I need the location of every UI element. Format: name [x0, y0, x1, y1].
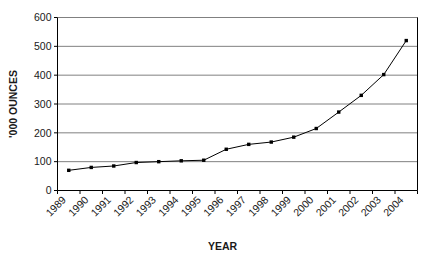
data-point — [360, 94, 363, 97]
line-chart: 0100200300400500600 19891990199119921993… — [0, 0, 432, 264]
y-tick-label: 500 — [34, 40, 52, 52]
data-point — [225, 148, 228, 151]
data-point — [157, 160, 160, 163]
data-point — [90, 166, 93, 169]
data-point — [135, 161, 138, 164]
y-tick-label: 200 — [34, 127, 52, 139]
y-tick-label: 600 — [34, 11, 52, 23]
y-tick-label: 400 — [34, 69, 52, 81]
y-tick-label: 100 — [34, 155, 52, 167]
data-point — [270, 140, 273, 143]
data-point — [315, 127, 318, 130]
y-tick-label: 0 — [46, 184, 52, 196]
data-point — [292, 135, 295, 138]
data-point — [180, 159, 183, 162]
y-axis-title: '000 OUNCES — [7, 70, 19, 138]
data-point — [405, 39, 408, 42]
chart-canvas: 0100200300400500600 19891990199119921993… — [0, 0, 432, 264]
y-tick-label: 300 — [34, 98, 52, 110]
x-axis-title: YEAR — [208, 240, 238, 252]
data-point — [112, 164, 115, 167]
data-point — [67, 169, 70, 172]
data-point — [247, 143, 250, 146]
data-point — [337, 110, 340, 113]
chart-background — [0, 0, 432, 264]
data-point — [202, 159, 205, 162]
data-point — [382, 73, 385, 76]
